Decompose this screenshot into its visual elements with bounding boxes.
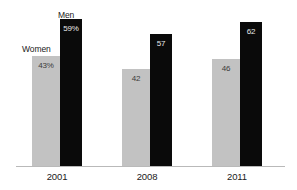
bar-value-women-2001: 43% — [32, 61, 60, 70]
x-axis-labels: 2001 2008 2011 — [0, 171, 297, 187]
series-label-women: Women — [22, 44, 51, 54]
bar-value-women-2008: 42 — [122, 74, 150, 83]
bar-men-2008[interactable]: 57 — [150, 34, 172, 167]
x-tick-label-2008: 2008 — [117, 171, 177, 183]
bar-men-2011[interactable]: 62 — [240, 22, 262, 167]
bar-women-2001[interactable]: 43% — [32, 56, 60, 167]
bar-men-2001[interactable]: 59% — [60, 19, 82, 167]
plot-area: 43% 59% 42 57 46 62 Women Men — [0, 0, 297, 167]
bar-value-men-2011: 62 — [240, 27, 262, 36]
x-tick-label-2001: 2001 — [27, 171, 87, 183]
bar-chart: 43% 59% 42 57 46 62 Women Men 2001 2008 … — [0, 0, 297, 190]
bar-value-men-2001: 59% — [60, 24, 82, 33]
bar-value-women-2011: 46 — [212, 64, 240, 73]
bar-women-2008[interactable]: 42 — [122, 69, 150, 167]
bar-women-2011[interactable]: 46 — [212, 59, 240, 167]
bar-value-men-2008: 57 — [150, 39, 172, 48]
x-axis-line — [16, 166, 285, 167]
series-label-men: Men — [58, 10, 74, 20]
x-tick-label-2011: 2011 — [207, 171, 267, 183]
